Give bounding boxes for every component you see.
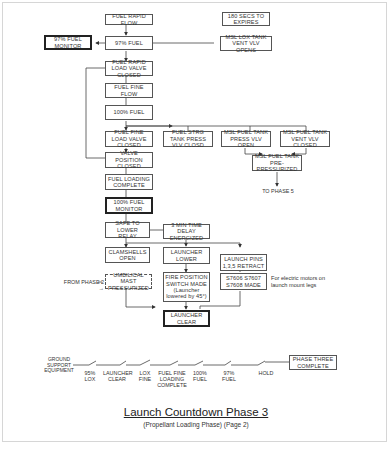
contact-95-lox: 95% LOX [80,370,100,382]
page-subtitle: (Propellant Loading Phase) (Page 2) [0,421,392,428]
box-180-secs: 180 SECS TO EXPIRES [222,12,270,26]
contact-hold: HOLD [256,370,276,376]
box-100-fuel: 100% FUEL [105,105,153,120]
box-safe-to-lower: SAFE TO LOWER RELAY [105,222,150,238]
box-s7606: S7606 S7607 S7608 MADE [220,273,267,290]
label-to-phase-5: TO PHASE 5 [258,188,298,194]
box-launcher-lower: LAUNCHER LOWER [163,247,210,264]
box-msl-vent-closed: MSL FUEL TANK VENT VLV CLOSED [280,131,330,147]
box-umbilical-mast: UMBILICAL MAST PRESSURIZED [105,274,152,289]
box-fuel-rapid-flow: FUEL RAPID FLOW [105,14,153,25]
box-fine-flow: FUEL FINE FLOW [105,83,153,98]
box-msl-prepress: MSL FUEL TANK PRE-PRESSURIZED [252,155,302,171]
box-clamshells: CLAMSHELLS OPEN [105,247,150,263]
box-rapid-load-closed: FUEL RAPID LOAD VALVE CLOSED [105,61,153,76]
box-100-fuel-monitor: 100% FUEL MONITOR [105,197,153,214]
box-loading-complete: FUEL LOADING COMPLETE [105,174,153,190]
box-launch-pins: LAUNCH PINS 1,3,5 RETRACT [220,254,267,271]
box-strg-tank-press: FUEL STRG TANK PRESS VLV CLOSD [163,131,213,147]
box-valve-position-closed: VALVE POSITION CLOSED [105,152,153,168]
contact-fuel-fine-loading: FUEL FINE LOADING COMPLETE [157,370,187,389]
label-from-phase-2: FROM PHASE 2 → [60,279,104,291]
contact-97-fuel: 97% FUEL [220,370,238,382]
box-97-fuel: 97% FUEL [105,36,153,50]
contact-100-fuel: 100% FUEL [191,370,209,382]
contact-lox-fine: LOX FINE [137,370,153,382]
box-time-delay: 3 MIN TIME DELAY ENERGIZED [163,224,210,239]
box-phase-three-complete: PHASE THREE COMPLETE [289,355,337,370]
box-msl-press-open: MSL FUEL TANK PRESS VLV OPEN [221,131,271,147]
note-electric-motors: For electric motors on launch mount legs [271,275,331,288]
label-ground-support: GROUND SUPPORT EQUIPMENT [44,357,74,374]
box-fine-load-closed: FUEL FINE LOAD VALVE CLOSED [105,131,153,147]
box-97-fuel-monitor: 97% FUEL MONITOR [44,35,92,50]
contact-launcher-clear: LAUNCHER CLEAR [103,370,131,382]
box-fire-position: FIRE POSITION SWITCH MADE (Launcher lowe… [163,272,210,302]
box-msl-lox-vent: MSL LOX TANK VENT VLV OPENS [220,36,272,51]
box-launcher-clear: LAUNCHER CLEAR [163,310,210,327]
page-title: Launch Countdown Phase 3 [0,406,392,418]
